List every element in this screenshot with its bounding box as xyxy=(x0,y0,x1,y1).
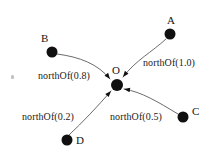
edge-d-to-o xyxy=(69,91,111,135)
node-dot-c xyxy=(178,112,189,123)
scan-artifact xyxy=(11,75,14,79)
node-label-d: D xyxy=(76,135,84,146)
nodes-layer xyxy=(47,29,189,146)
node-dot-d xyxy=(62,135,73,146)
node-label-c: C xyxy=(192,106,200,117)
edge-label-d-to-o: northOf(0.2) xyxy=(22,112,74,122)
node-dot-o xyxy=(111,79,123,91)
diagram-canvas: A B C D O northOf(1.0) northOf(0.8) nort… xyxy=(0,0,212,156)
edge-label-a-to-o: northOf(1.0) xyxy=(143,58,195,68)
edge-label-b-to-o: northOf(0.8) xyxy=(38,71,90,81)
node-dot-b xyxy=(47,47,58,58)
graph-svg xyxy=(0,0,212,156)
node-dot-a xyxy=(165,29,176,40)
node-label-b: B xyxy=(41,33,49,44)
node-label-a: A xyxy=(167,15,175,26)
edge-label-c-to-o: northOf(0.5) xyxy=(110,112,162,122)
node-label-o: O xyxy=(112,65,120,76)
